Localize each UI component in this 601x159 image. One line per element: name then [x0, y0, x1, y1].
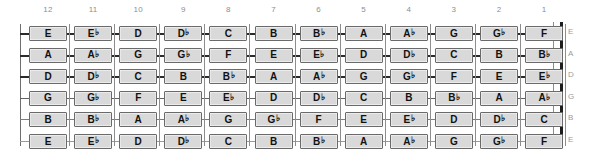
note-box[interactable]: G: [119, 48, 157, 63]
note-box[interactable]: A: [29, 48, 67, 63]
note-letter: A: [44, 50, 51, 60]
note-box[interactable]: D♭: [164, 26, 202, 41]
note-letter: A: [360, 29, 367, 39]
note-letter: A: [360, 137, 367, 147]
note-box[interactable]: G: [435, 134, 473, 149]
note-box[interactable]: F: [300, 112, 338, 127]
note-box[interactable]: C: [209, 134, 247, 149]
note-box[interactable]: E: [164, 91, 202, 106]
note-box[interactable]: D♭: [164, 134, 202, 149]
note-box[interactable]: E: [255, 48, 293, 63]
note-box[interactable]: G: [345, 69, 383, 84]
fret-wire-5: [295, 24, 296, 146]
note-box[interactable]: D♭: [74, 69, 112, 84]
note-box[interactable]: G♭: [480, 26, 518, 41]
note-box[interactable]: E♭: [209, 91, 247, 106]
note-box[interactable]: G♭: [390, 69, 428, 84]
flat-symbol: ♭: [185, 136, 189, 145]
note-letter: B: [313, 137, 320, 147]
note-box[interactable]: F: [435, 69, 473, 84]
note-box[interactable]: E♭: [525, 69, 563, 84]
note-box[interactable]: C: [525, 112, 563, 127]
note-box[interactable]: G: [29, 91, 67, 106]
note-box[interactable]: C: [435, 48, 473, 63]
note-box[interactable]: D: [29, 69, 67, 84]
fret-number-6: 6: [299, 5, 339, 15]
flat-symbol: ♭: [411, 28, 415, 37]
note-box[interactable]: A♭: [525, 91, 563, 106]
note-box[interactable]: D: [119, 134, 157, 149]
note-letter: G: [403, 72, 411, 82]
note-box[interactable]: B: [164, 69, 202, 84]
note-box[interactable]: F: [525, 134, 563, 149]
flat-symbol: ♭: [320, 50, 324, 59]
string-label-2: A: [568, 49, 584, 59]
flat-symbol: ♭: [186, 50, 190, 59]
note-box[interactable]: B: [480, 48, 518, 63]
note-box[interactable]: E: [345, 112, 383, 127]
note-box[interactable]: D: [435, 112, 473, 127]
note-box[interactable]: A♭: [390, 26, 428, 41]
note-box[interactable]: A♭: [300, 69, 338, 84]
note-box[interactable]: D: [345, 48, 383, 63]
note-box[interactable]: B: [390, 91, 428, 106]
note-box[interactable]: G♭: [255, 112, 293, 127]
note-box[interactable]: E: [480, 69, 518, 84]
note-letter: F: [225, 50, 231, 60]
note-box[interactable]: A♭: [164, 112, 202, 127]
note-box[interactable]: G♭: [480, 134, 518, 149]
flat-symbol: ♭: [231, 71, 235, 80]
note-box[interactable]: C: [345, 91, 383, 106]
note-box[interactable]: F: [209, 48, 247, 63]
note-letter: D: [360, 50, 367, 60]
note-box[interactable]: B: [29, 112, 67, 127]
note-box[interactable]: B♭: [435, 91, 473, 106]
note-box[interactable]: G♭: [74, 91, 112, 106]
note-box[interactable]: B♭: [209, 69, 247, 84]
note-box[interactable]: C: [119, 69, 157, 84]
note-box[interactable]: D: [119, 26, 157, 41]
note-box[interactable]: B♭: [300, 26, 338, 41]
string-label-6: E: [568, 135, 584, 145]
note-box[interactable]: F: [525, 26, 563, 41]
note-box[interactable]: A: [480, 91, 518, 106]
note-box[interactable]: E♭: [300, 48, 338, 63]
note-letter: G: [360, 72, 368, 82]
note-box[interactable]: B♭: [300, 134, 338, 149]
note-box[interactable]: B: [255, 134, 293, 149]
note-box[interactable]: A: [255, 69, 293, 84]
note-box[interactable]: A♭: [74, 48, 112, 63]
flat-symbol: ♭: [95, 28, 99, 37]
string-label-4: G: [568, 92, 584, 102]
note-box[interactable]: A: [345, 26, 383, 41]
flat-symbol: ♭: [456, 93, 460, 102]
note-box[interactable]: A: [119, 112, 157, 127]
note-box[interactable]: B♭: [74, 112, 112, 127]
note-letter: B: [405, 93, 412, 103]
note-box[interactable]: E♭: [74, 26, 112, 41]
note-box[interactable]: D♭: [300, 91, 338, 106]
note-box[interactable]: D: [255, 91, 293, 106]
note-box[interactable]: G: [209, 112, 247, 127]
note-box[interactable]: E♭: [74, 134, 112, 149]
note-box[interactable]: A♭: [390, 134, 428, 149]
note-box[interactable]: B: [255, 26, 293, 41]
note-box[interactable]: E: [29, 26, 67, 41]
note-box[interactable]: G♭: [164, 48, 202, 63]
note-box[interactable]: A: [345, 134, 383, 149]
note-box[interactable]: D♭: [480, 112, 518, 127]
note-letter: E: [223, 93, 230, 103]
note-box[interactable]: G: [435, 26, 473, 41]
note-box[interactable]: D♭: [390, 48, 428, 63]
note-box[interactable]: E: [29, 134, 67, 149]
note-letter: D: [87, 72, 94, 82]
note-letter: E: [88, 137, 95, 147]
flat-symbol: ♭: [95, 114, 99, 123]
note-box[interactable]: C: [209, 26, 247, 41]
flat-symbol: ♭: [95, 93, 99, 102]
note-letter: C: [360, 93, 367, 103]
note-letter: E: [45, 137, 52, 147]
note-box[interactable]: F: [119, 91, 157, 106]
note-box[interactable]: B♭: [525, 48, 563, 63]
note-box[interactable]: E♭: [390, 112, 428, 127]
